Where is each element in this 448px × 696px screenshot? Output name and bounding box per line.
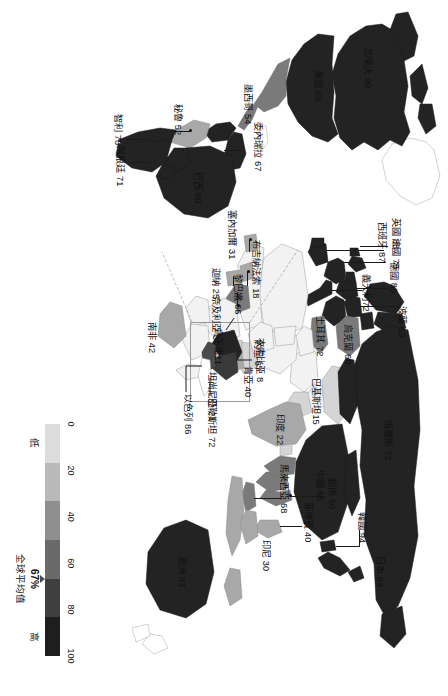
label-burkina: 布吉納法索 18 xyxy=(251,240,260,299)
label-jordan: 約旦 67 xyxy=(253,340,262,371)
leader-argentina-v xyxy=(128,162,148,163)
label-israel: 以色列 86 xyxy=(183,394,192,434)
leader-burkina-h xyxy=(247,272,248,286)
label-kenya: 肯亞 40 xyxy=(243,366,252,397)
label-nigeria: 奈及利亞 39 xyxy=(211,296,220,345)
legend-tick-20: 20 xyxy=(66,465,76,475)
label-south-africa: 南非 42 xyxy=(147,322,156,353)
region-portugal xyxy=(310,238,324,248)
label-philippines: 菲律賓 40 xyxy=(303,502,312,542)
label-italy: 義大利72 xyxy=(361,274,370,312)
region-baltics xyxy=(360,312,374,330)
label-chile: 智利 78 xyxy=(113,114,122,145)
leader-peru-dot xyxy=(189,129,192,132)
legend-high-label: 高 xyxy=(28,632,42,642)
label-argentina: 阿根廷 71 xyxy=(115,146,124,186)
leader-philippines-v xyxy=(280,526,302,527)
legend-tick-80: 80 xyxy=(66,605,76,615)
legend-swatch-60-80 xyxy=(45,540,60,579)
legend: 0 20 40 60 80 100 低 高 67% 全球平均值 xyxy=(14,424,76,674)
label-lebanon: 黎巴嫩 66 xyxy=(233,274,242,314)
legend-swatch-40-60 xyxy=(45,501,60,540)
label-poland: 波蘭 69 xyxy=(397,306,406,337)
legend-average-value: 67% xyxy=(29,569,40,589)
label-germany: 德國 85 xyxy=(389,262,398,293)
legend-swatch-0-20 xyxy=(45,424,60,463)
label-ghana: 迦納 25 xyxy=(211,268,220,299)
rotated-figure-canvas: .c0{fill:#f2f2f2;stroke:#9b9b9b;stroke-w… xyxy=(0,0,448,696)
label-peru: 秘魯 52 xyxy=(173,104,182,135)
leader-malaysia-v xyxy=(254,498,282,499)
label-pakistan: 巴基斯坦15 xyxy=(311,378,320,425)
figure-page: .c0{fill:#f2f2f2;stroke:#9b9b9b;stroke-w… xyxy=(0,0,448,696)
label-ukraine: 烏克蘭 60 xyxy=(343,324,352,364)
label-indonesia: 印尼 30 xyxy=(261,540,270,571)
legend-tick-100: 100 xyxy=(66,648,76,663)
label-malaysia: 馬來西亞 68 xyxy=(279,464,288,513)
label-vietnam: 越南 50 xyxy=(327,478,336,509)
label-russia: 俄羅斯 72 xyxy=(383,420,392,460)
leader-vietnam-dot xyxy=(289,494,292,497)
legend-swatch-80-90 xyxy=(45,579,60,618)
region-bangladesh xyxy=(280,444,292,456)
legend-tick-0: 0 xyxy=(66,421,76,426)
leader-korea-v xyxy=(336,546,360,547)
legend-low-label: 低 xyxy=(28,438,42,448)
label-spain: 西班牙 87 xyxy=(377,222,386,262)
leader-spain-v xyxy=(326,250,384,251)
legend-color-bar xyxy=(45,424,60,656)
label-india: 印度 22 xyxy=(275,414,284,445)
leader-italy-v xyxy=(330,290,362,291)
legend-average-marker xyxy=(40,575,45,583)
label-united-states: 美國 89 xyxy=(313,70,322,101)
legend-swatch-20-40 xyxy=(45,463,60,502)
label-senegal: 塞內加爾 31 xyxy=(227,210,236,259)
legend-average-caption: 全球平均值 xyxy=(14,554,28,604)
label-mexico: 墨西哥 54 xyxy=(243,84,252,124)
leader-chile-v xyxy=(126,139,148,140)
legend-tick-labels: 0 20 40 60 80 100 xyxy=(62,424,76,656)
leader-burkina-dot xyxy=(247,270,250,273)
label-korea: 韓國 94 xyxy=(357,512,366,543)
region-benelux xyxy=(346,272,356,282)
label-venezuela: 委內瑞拉 67 xyxy=(253,122,262,171)
leader-venezuela-v xyxy=(224,150,242,151)
legend-swatch-90-100 xyxy=(45,617,60,656)
label-china: 中國 65 xyxy=(315,470,324,501)
region-north-africa xyxy=(258,244,308,336)
label-turkey: 土耳其 72 xyxy=(315,316,324,356)
label-canada: 加拿大 90 xyxy=(363,48,372,88)
world-choropleth-map: .c0{fill:#f2f2f2;stroke:#9b9b9b;stroke-w… xyxy=(98,0,448,696)
legend-tick-40: 40 xyxy=(66,512,76,522)
region-korea xyxy=(320,540,336,552)
legend-tick-60: 60 xyxy=(66,558,76,568)
label-palestine: 巴勒斯坦 72 xyxy=(207,398,216,447)
label-brazil: 巴西 60 xyxy=(193,172,202,203)
region-egypt xyxy=(274,326,296,346)
label-australia: 澳洲 93 xyxy=(177,556,186,587)
label-japan: 日本 69 xyxy=(375,556,384,587)
